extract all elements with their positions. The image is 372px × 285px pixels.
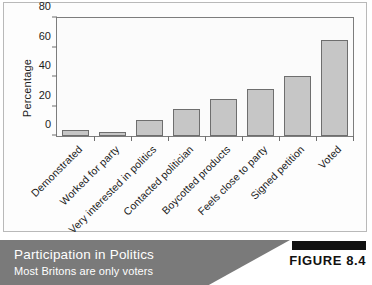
bar-series xyxy=(57,18,353,136)
caption-text: Participation in Politics Most Britons a… xyxy=(14,246,154,279)
x-tick-mark xyxy=(131,136,132,141)
caption-band: Participation in Politics Most Britons a… xyxy=(0,240,372,285)
x-tick-mark xyxy=(242,136,243,141)
bar-slot xyxy=(205,18,242,136)
x-tick-label: Contacted politician xyxy=(120,143,195,218)
y-tick-label: 80 xyxy=(39,0,57,12)
x-tick-mark xyxy=(353,136,354,141)
y-tick-label: 60 xyxy=(39,30,57,42)
chart-frame: Percentage 020406080 DemonstratedWorked … xyxy=(3,2,367,232)
bar[interactable] xyxy=(284,76,311,136)
caption-subtitle: Most Britons are only voters xyxy=(14,263,154,279)
y-tick-label: 40 xyxy=(39,59,57,71)
bar[interactable] xyxy=(210,99,237,136)
y-tick-label: 0 xyxy=(45,118,57,130)
x-tick-label: Feels close to party xyxy=(195,143,269,217)
bar[interactable] xyxy=(62,130,89,136)
bar-slot xyxy=(316,18,353,136)
y-tick-label: 20 xyxy=(39,89,57,101)
figure-container: Percentage 020406080 DemonstratedWorked … xyxy=(0,0,372,285)
x-tick-mark xyxy=(205,136,206,141)
figure-tag-bar xyxy=(292,241,366,250)
bar[interactable] xyxy=(173,109,200,136)
x-tick-label: Voted xyxy=(315,143,343,171)
x-tick-label: Boycotted products xyxy=(159,143,232,216)
bar-slot xyxy=(94,18,131,136)
bar-slot xyxy=(168,18,205,136)
bar[interactable] xyxy=(136,120,163,136)
bar[interactable] xyxy=(99,132,126,136)
x-tick-mark xyxy=(94,136,95,141)
y-axis-title: Percentage xyxy=(21,28,33,148)
x-tick-mark xyxy=(316,136,317,141)
bar-slot xyxy=(57,18,94,136)
bar[interactable] xyxy=(321,40,348,136)
figure-number-label: FIGURE 8.4 xyxy=(289,253,366,268)
bar-slot xyxy=(279,18,316,136)
bar-slot xyxy=(242,18,279,136)
x-tick-mark xyxy=(279,136,280,141)
x-tick-mark xyxy=(168,136,169,141)
bar[interactable] xyxy=(247,89,274,136)
bar-slot xyxy=(131,18,168,136)
caption-title: Participation in Politics xyxy=(14,246,154,263)
plot-area: Percentage 020406080 DemonstratedWorked … xyxy=(56,17,354,137)
